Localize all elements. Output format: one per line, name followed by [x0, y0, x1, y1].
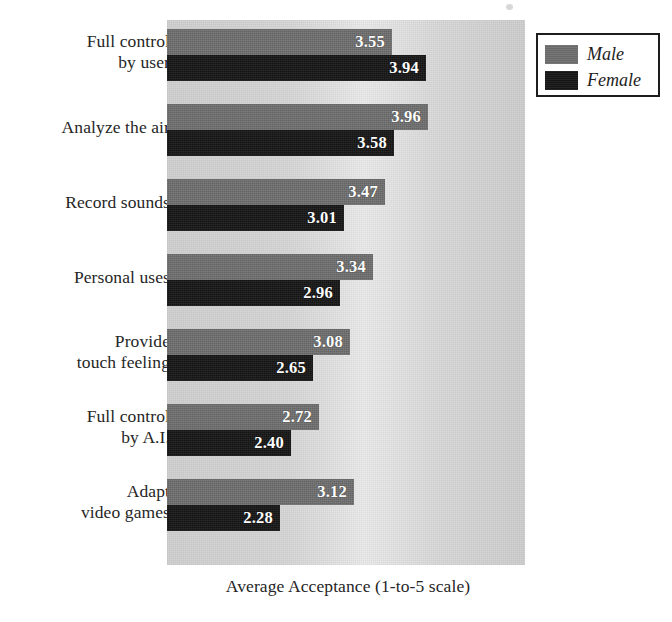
- category-label-line: video games: [10, 502, 170, 523]
- legend-swatch-male-icon: [545, 45, 578, 64]
- bar-value-label: 3.55: [355, 32, 392, 52]
- bar-value-label: 2.96: [303, 283, 340, 303]
- bar-male: 3.96: [167, 104, 428, 130]
- x-axis-title: Average Acceptance (1-to-5 scale): [0, 576, 672, 597]
- legend: Male Female: [536, 33, 660, 97]
- category-label-line: touch feeling: [10, 352, 170, 373]
- bar-row: Providetouch feeling3.082.65: [0, 320, 672, 395]
- scan-artifact: [506, 4, 513, 10]
- category-label: Full controlby user: [10, 20, 170, 73]
- category-label: Adaptvideo games: [10, 470, 170, 523]
- bar-value-label: 3.01: [307, 208, 344, 228]
- category-label-line: Provide: [10, 331, 170, 352]
- bar-female: 3.94: [167, 55, 426, 81]
- bar-row: Record sounds3.473.01: [0, 170, 672, 245]
- bar-female: 3.01: [167, 205, 344, 231]
- bar-value-label: 2.72: [282, 407, 319, 427]
- category-label-line: by A.I.: [10, 427, 170, 448]
- legend-label-female: Female: [587, 71, 641, 90]
- bar-value-label: 3.34: [336, 257, 373, 277]
- bar-value-label: 3.12: [317, 482, 354, 502]
- bar-row: Analyze the air3.963.58: [0, 95, 672, 170]
- bar-value-label: 3.96: [391, 107, 428, 127]
- bar-male: 2.72: [167, 404, 319, 430]
- legend-label-male: Male: [587, 45, 624, 64]
- bar-male: 3.47: [167, 179, 385, 205]
- legend-item-female: Female: [545, 67, 652, 93]
- bar-female: 2.65: [167, 355, 313, 381]
- bar-value-label: 3.08: [313, 332, 350, 352]
- category-label-line: Full control: [10, 406, 170, 427]
- bar-value-label: 3.47: [348, 182, 385, 202]
- bar-value-label: 2.65: [276, 358, 313, 378]
- bar-value-label: 3.58: [357, 133, 394, 153]
- category-label-line: Adapt: [10, 481, 170, 502]
- category-label-line: Analyze the air: [10, 117, 170, 138]
- bar-value-label: 2.40: [254, 433, 291, 453]
- bar-row: Adaptvideo games3.122.28: [0, 470, 672, 545]
- bar-female: 2.28: [167, 505, 280, 531]
- bar-row: Full controlby A.I.2.722.40: [0, 395, 672, 470]
- legend-swatch-female-icon: [545, 71, 578, 90]
- category-label-line: Full control: [10, 31, 170, 52]
- category-label-line: by user: [10, 52, 170, 73]
- bar-male: 3.12: [167, 479, 354, 505]
- category-label: Providetouch feeling: [10, 320, 170, 373]
- category-label-line: Personal uses: [10, 267, 170, 288]
- category-label: Full controlby A.I.: [10, 395, 170, 448]
- bar-value-label: 3.94: [389, 58, 426, 78]
- bar-row: Personal uses3.342.96: [0, 245, 672, 320]
- legend-item-male: Male: [545, 41, 652, 67]
- bar-rows: Full controlby user3.553.94Analyze the a…: [0, 20, 672, 545]
- bar-male: 3.55: [167, 29, 392, 55]
- category-label: Analyze the air: [10, 95, 170, 138]
- bar-male: 3.34: [167, 254, 373, 280]
- bar-female: 3.58: [167, 130, 394, 156]
- bar-female: 2.40: [167, 430, 291, 456]
- bar-female: 2.96: [167, 280, 340, 306]
- bar-chart: Full controlby user3.553.94Analyze the a…: [0, 0, 672, 622]
- category-label: Record sounds: [10, 170, 170, 213]
- bar-male: 3.08: [167, 329, 350, 355]
- category-label: Personal uses: [10, 245, 170, 288]
- bar-value-label: 2.28: [243, 508, 280, 528]
- category-label-line: Record sounds: [10, 192, 170, 213]
